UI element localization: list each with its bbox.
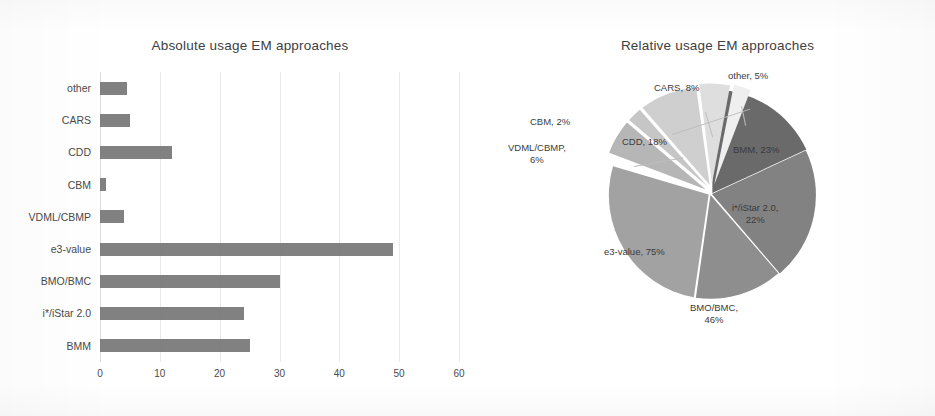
gridline-50	[399, 72, 400, 362]
bar-label-istar: i*/iStar 2.0	[43, 307, 91, 319]
bar-row: BMO/BMC	[100, 265, 280, 297]
bar-istar	[100, 307, 244, 320]
xtick-40: 40	[334, 368, 345, 379]
xtick-50: 50	[394, 368, 405, 379]
pie-label-istar: i*/iStar 2.0, 22%	[732, 202, 778, 225]
pie-label-bmm: BMM, 23%	[733, 144, 779, 156]
xtick-0: 0	[97, 368, 103, 379]
bar-cbm	[100, 178, 106, 191]
bar-label-vdml-cbmp: VDML/CBMP	[29, 211, 91, 223]
pie-label-vdml-cbmp: VDML/CBMP, 6%	[508, 142, 566, 165]
pie-label-other: other, 5%	[728, 70, 768, 82]
pie-chart-title: Relative usage EM approaches	[500, 38, 935, 53]
pie-slice-e3-value	[609, 166, 709, 297]
pie-label-e3-value: e3-value, 75%	[604, 246, 665, 258]
bar-label-bmm: BMM	[67, 340, 92, 352]
bar-row: CBM	[100, 169, 106, 201]
bar-bmm	[100, 339, 250, 352]
xtick-30: 30	[274, 368, 285, 379]
bar-row: BMM	[100, 330, 250, 362]
pie-label-bmo-bmc: BMO/BMC, 46%	[690, 302, 738, 325]
gridline-30	[280, 72, 281, 362]
xtick-10: 10	[154, 368, 165, 379]
bar-label-bmo-bmc: BMO/BMC	[41, 275, 91, 287]
bar-cdd	[100, 146, 172, 159]
pie-label-cbm: CBM, 2%	[530, 116, 570, 128]
pie-label-cdd: CDD, 18%	[622, 136, 667, 148]
bar-row: CARS	[100, 104, 130, 136]
gridline-60	[459, 72, 460, 362]
bar-bmo-bmc	[100, 275, 280, 288]
bar-label-cbm: CBM	[68, 179, 91, 191]
bar-row: VDML/CBMP	[100, 201, 124, 233]
bar-row: other	[100, 72, 127, 104]
pie-graphic	[597, 82, 823, 308]
bar-label-cdd: CDD	[68, 146, 91, 158]
relative-usage-pie-chart-panel: Relative usage EM approaches	[500, 0, 935, 416]
bar-chart-plot-area: other CARS CDD CBM VDML/CBMP e3-value BM…	[100, 72, 459, 362]
bar-e3-value	[100, 243, 393, 256]
xtick-20: 20	[214, 368, 225, 379]
gridline-40	[339, 72, 340, 362]
bar-other	[100, 82, 127, 95]
bar-row: CDD	[100, 136, 172, 168]
bar-row: e3-value	[100, 233, 393, 265]
bar-vdml-cbmp	[100, 210, 124, 223]
bar-chart-title: Absolute usage EM approaches	[0, 38, 500, 53]
pie-chart-plot-area: BMM, 23% i*/iStar 2.0, 22% BMO/BMC, 46% …	[560, 62, 860, 392]
absolute-usage-bar-chart-panel: Absolute usage EM approaches other CARS …	[0, 0, 500, 416]
bar-label-e3-value: e3-value	[51, 243, 91, 255]
pie-slices	[609, 83, 816, 298]
bar-row: i*/iStar 2.0	[100, 297, 244, 329]
bar-cars	[100, 114, 130, 127]
pie-label-cars: CARS, 8%	[654, 82, 699, 94]
bar-label-other: other	[67, 82, 91, 94]
bar-label-cars: CARS	[62, 114, 91, 126]
xtick-60: 60	[453, 368, 464, 379]
